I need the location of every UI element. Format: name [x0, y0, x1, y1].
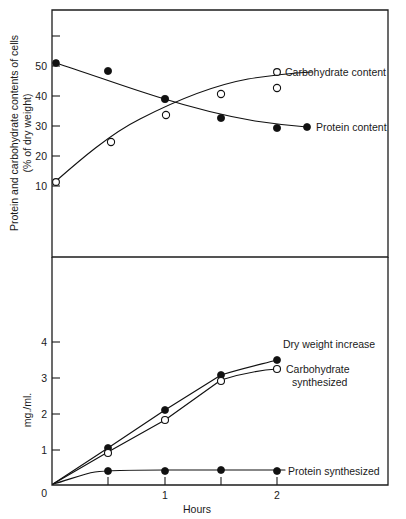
top-panel-y-axis-title-line1: Protein and carbohydrate contents of cel… [8, 35, 20, 231]
bottom-ytick-label-3: 3 [41, 372, 47, 384]
top-series-label-protein: Protein content [316, 121, 387, 133]
top-ytick-label-10: 10 [35, 180, 47, 192]
top-carbohydrate-label-marker [274, 69, 281, 76]
data-point [105, 468, 112, 475]
bottom-panel-y-ticks [52, 342, 60, 450]
top-ytick-label-20: 20 [35, 150, 47, 162]
bottom-dry-weight-points [105, 357, 281, 452]
figure-container: 50 40 30 20 10 Protein and carbohydrate … [0, 0, 406, 519]
data-point [273, 84, 280, 91]
bottom-carbohydrate-synthesized-curve [53, 369, 277, 484]
data-point [217, 90, 224, 97]
bottom-ytick-label-1: 1 [41, 444, 47, 456]
bottom-panel-x-axis-title: Hours [183, 503, 211, 515]
data-point [161, 95, 168, 102]
bottom-ytick-label-4: 4 [41, 336, 47, 348]
data-point [274, 357, 281, 364]
data-point [218, 467, 225, 474]
data-point [162, 111, 169, 118]
data-point [105, 450, 112, 457]
bottom-protein-synthesized-curve [53, 470, 285, 484]
bottom-series-label-protein: Protein synthesized [288, 465, 380, 477]
figure-svg: 50 40 30 20 10 Protein and carbohydrate … [0, 0, 406, 519]
bottom-panel-x-ticks [108, 477, 277, 485]
data-point [107, 138, 114, 145]
data-point [53, 179, 60, 186]
bottom-ytick-label-0: 0 [41, 487, 47, 499]
bottom-series-label-carbohydrate-line2: synthesized [292, 376, 348, 388]
data-point [104, 67, 111, 74]
bottom-ytick-label-2: 2 [41, 408, 47, 420]
bottom-xtick-label-2: 2 [274, 489, 280, 501]
top-ytick-label-50: 50 [35, 60, 47, 72]
data-point [162, 468, 169, 475]
bottom-series-label-carbohydrate-line1: Carbohydrate [286, 363, 350, 375]
top-ytick-label-30: 30 [35, 120, 47, 132]
top-panel-y-ticks [52, 36, 60, 186]
data-point [273, 124, 280, 131]
top-protein-label-marker [304, 124, 311, 131]
bottom-xtick-label-1: 1 [162, 489, 168, 501]
bottom-panel: 4 3 2 1 0 1 2 mg./ml. Hours [21, 257, 388, 515]
top-protein-content-points [53, 60, 281, 132]
top-series-label-carbohydrate: Carbohydrate content [285, 66, 386, 78]
top-panel: 50 40 30 20 10 Protein and carbohydrate … [8, 10, 388, 257]
top-panel-y-axis-title-line2: (% of dry weight) [21, 94, 33, 173]
bottom-panel-y-axis-title: mg./ml. [21, 393, 33, 427]
data-point [218, 378, 225, 385]
data-point [274, 468, 281, 475]
top-panel-frame [52, 10, 388, 257]
data-point [217, 114, 224, 121]
bottom-carbohydrate-synthesized-points [105, 366, 281, 457]
data-point [53, 60, 60, 67]
data-point [274, 366, 281, 373]
bottom-series-label-dry-weight: Dry weight increase [283, 338, 375, 350]
top-protein-content-curve [56, 63, 307, 127]
data-point [162, 417, 169, 424]
top-ytick-label-40: 40 [35, 90, 47, 102]
data-point [162, 407, 169, 414]
